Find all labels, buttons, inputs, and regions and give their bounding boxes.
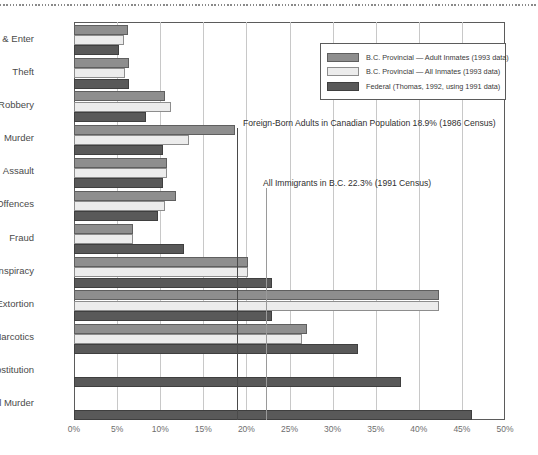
foreign-born-line-label: Foreign-Born Adults in Canadian Populati… bbox=[243, 118, 496, 128]
bar bbox=[74, 158, 167, 168]
x-axis-tick-label: 5% bbox=[97, 424, 137, 434]
category-label: Murder bbox=[0, 132, 34, 143]
category-label: Break & Enter bbox=[0, 33, 34, 44]
x-axis-tick-label: 25% bbox=[270, 424, 310, 434]
bar bbox=[74, 145, 163, 155]
legend-swatch-adult-inmates bbox=[327, 53, 359, 62]
bar bbox=[74, 224, 133, 234]
legend-swatch-all-inmates bbox=[327, 67, 359, 76]
bar bbox=[74, 125, 235, 135]
foreign-born-line bbox=[237, 128, 238, 420]
bar bbox=[74, 91, 165, 101]
gridline bbox=[203, 22, 204, 420]
bar bbox=[74, 35, 124, 45]
x-axis-tick-label: 0% bbox=[54, 424, 94, 434]
bar bbox=[74, 201, 165, 211]
category-label: Fraud bbox=[0, 232, 34, 243]
x-axis-tick-label: 30% bbox=[313, 424, 353, 434]
bar bbox=[74, 68, 125, 78]
bar bbox=[74, 410, 472, 420]
horizontal-bar-chart: Break & EnterTheftRobberyMurderAssaultSe… bbox=[0, 0, 538, 455]
category-label: Conspiracy bbox=[0, 265, 34, 276]
category-label: Robbery bbox=[0, 99, 34, 110]
x-axis-tick-label: 15% bbox=[183, 424, 223, 434]
legend-item: B.C. Provincial — Adult Inmates (1993 da… bbox=[327, 51, 499, 64]
bar bbox=[74, 25, 128, 35]
bar bbox=[74, 311, 272, 321]
x-axis-tick-label: 20% bbox=[226, 424, 266, 434]
gridline bbox=[246, 22, 247, 420]
gridline bbox=[290, 22, 291, 420]
bar bbox=[74, 334, 302, 344]
bar bbox=[74, 267, 248, 277]
legend-swatch-federal bbox=[327, 82, 359, 91]
bar bbox=[74, 135, 189, 145]
bar bbox=[74, 45, 119, 55]
bar bbox=[74, 79, 129, 89]
bar bbox=[74, 112, 146, 122]
category-label: Theft bbox=[0, 66, 34, 77]
x-axis-tick-label: 45% bbox=[442, 424, 482, 434]
bar bbox=[74, 278, 272, 288]
x-axis-tick-label: 40% bbox=[399, 424, 439, 434]
chart-legend: B.C. Provincial — Adult Inmates (1993 da… bbox=[320, 43, 506, 100]
bar bbox=[74, 301, 439, 311]
bar bbox=[74, 257, 248, 267]
category-label: Narcotics bbox=[0, 331, 34, 342]
bar bbox=[74, 211, 158, 221]
gridline bbox=[160, 22, 161, 420]
bar bbox=[74, 58, 129, 68]
legend-label-federal: Federal (Thomas, 1992, using 1991 data) bbox=[366, 82, 500, 91]
x-axis-tick-label: 50% bbox=[485, 424, 525, 434]
category-label: Sex Offences bbox=[0, 198, 34, 209]
all-immigrants-line-label: All Immigrants in B.C. 22.3% (1991 Censu… bbox=[263, 178, 431, 188]
legend-label-all-inmates: B.C. Provincial — All Inmates (1993 data… bbox=[366, 67, 500, 76]
category-label: Extortion bbox=[0, 298, 34, 309]
bar bbox=[74, 344, 358, 354]
bar bbox=[74, 178, 163, 188]
bar bbox=[74, 324, 307, 334]
x-axis-tick-label: 10% bbox=[140, 424, 180, 434]
all-immigrants-line bbox=[266, 188, 267, 420]
category-label: Counsel Murder bbox=[0, 397, 34, 408]
category-label: Prostitution bbox=[0, 364, 34, 375]
bar bbox=[74, 191, 176, 201]
x-axis-tick-label: 35% bbox=[356, 424, 396, 434]
legend-item: Federal (Thomas, 1992, using 1991 data) bbox=[327, 80, 499, 93]
bar bbox=[74, 234, 133, 244]
category-label: Assault bbox=[0, 165, 34, 176]
legend-item: B.C. Provincial — All Inmates (1993 data… bbox=[327, 65, 499, 78]
bar bbox=[74, 102, 171, 112]
bar bbox=[74, 244, 184, 254]
legend-label-adult-inmates: B.C. Provincial — Adult Inmates (1993 da… bbox=[366, 53, 509, 62]
bar bbox=[74, 168, 167, 178]
bar bbox=[74, 290, 439, 300]
